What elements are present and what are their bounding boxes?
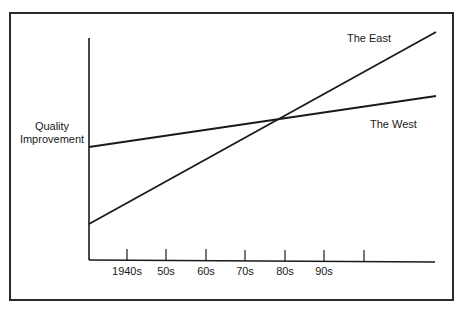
tick-label-90s: 90s bbox=[315, 265, 333, 277]
y-axis-label-line1: Quality bbox=[14, 120, 90, 133]
tick-label-1940s: 1940s bbox=[112, 265, 142, 277]
tick-label-60s: 60s bbox=[197, 265, 215, 277]
x-axis bbox=[89, 260, 435, 262]
x-ticks bbox=[127, 249, 364, 261]
series-label-west: The West bbox=[370, 118, 417, 130]
series-label-east: The East bbox=[347, 32, 391, 44]
y-axis-label: Quality Improvement bbox=[14, 120, 90, 145]
line-chart bbox=[0, 0, 465, 316]
tick-label-70s: 70s bbox=[236, 265, 254, 277]
y-axis-label-line2: Improvement bbox=[14, 133, 90, 146]
tick-label-80s: 80s bbox=[276, 265, 294, 277]
tick-label-50s: 50s bbox=[157, 265, 175, 277]
